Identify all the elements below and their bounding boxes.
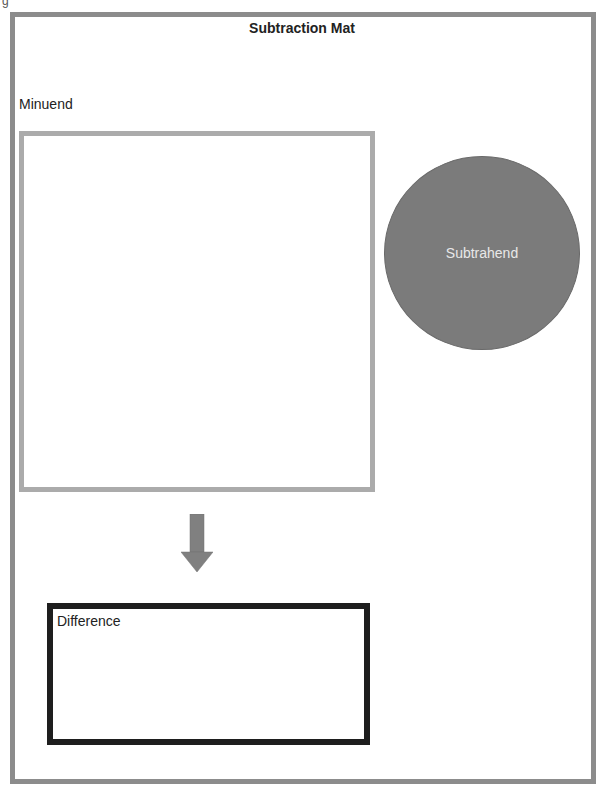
difference-area[interactable]: Difference: [47, 603, 370, 745]
subtrahend-circle[interactable]: Subtrahend: [384, 156, 580, 350]
arrow-down-icon: [181, 514, 213, 572]
corner-mark: g: [2, 0, 9, 8]
minuend-label: Minuend: [19, 96, 73, 112]
page-title: Subtraction Mat: [0, 20, 604, 36]
subtrahend-label: Subtrahend: [446, 245, 518, 261]
minuend-area[interactable]: [19, 131, 375, 492]
difference-label: Difference: [57, 613, 121, 629]
